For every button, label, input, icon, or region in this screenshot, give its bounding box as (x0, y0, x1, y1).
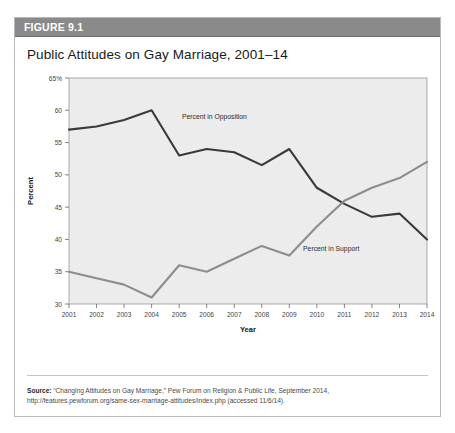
figure-number-label: FIGURE 9.1 (24, 21, 83, 33)
x-tick-label: 2012 (365, 311, 380, 318)
plot-background (69, 78, 427, 304)
x-axis-label: Year (240, 325, 256, 334)
x-tick-label: 2013 (392, 311, 407, 318)
x-tick-label: 2010 (310, 311, 325, 318)
x-tick-label: 2007 (227, 311, 242, 318)
y-tick-label: 30 (55, 301, 63, 308)
x-tick-label: 2004 (144, 311, 159, 318)
series-label: Percent in Support (303, 245, 359, 253)
footer-divider (27, 375, 428, 376)
chart-area: 3035404550556065%20012002200320042005200… (15, 66, 442, 354)
y-axis-label: Percent (26, 177, 35, 205)
y-tick-label: 65% (49, 75, 62, 82)
y-tick-label: 35 (55, 268, 63, 275)
figure-card: FIGURE 9.1 Public Attitudes on Gay Marri… (14, 17, 441, 417)
y-tick-label: 50 (55, 171, 63, 178)
x-tick-label: 2001 (62, 311, 77, 318)
y-tick-label: 40 (55, 236, 63, 243)
x-tick-label: 2009 (282, 311, 297, 318)
figure-title: Public Attitudes on Gay Marriage, 2001–1… (15, 37, 440, 66)
y-tick-label: 60 (55, 107, 63, 114)
x-tick-label: 2005 (172, 311, 187, 318)
source-prefix: Source: (27, 387, 52, 394)
source-line-2: http://features.pewforum.org/same-sex-ma… (27, 396, 428, 406)
figure-header: FIGURE 9.1 (15, 18, 440, 37)
line-chart: 3035404550556065%20012002200320042005200… (15, 66, 442, 354)
x-tick-label: 2008 (254, 311, 269, 318)
series-label: Percent in Opposition (182, 113, 247, 121)
y-tick-label: 55 (55, 139, 63, 146)
x-tick-label: 2006 (199, 311, 214, 318)
x-tick-label: 2002 (89, 311, 104, 318)
source-citation: “Changing Attitudes on Gay Marriage,” Pe… (52, 387, 329, 394)
source-note: Source: “Changing Attitudes on Gay Marri… (27, 386, 428, 406)
x-tick-label: 2014 (420, 311, 435, 318)
x-tick-label: 2003 (117, 311, 132, 318)
x-tick-label: 2011 (337, 311, 352, 318)
y-tick-label: 45 (55, 204, 63, 211)
source-line-1: Source: “Changing Attitudes on Gay Marri… (27, 386, 428, 396)
